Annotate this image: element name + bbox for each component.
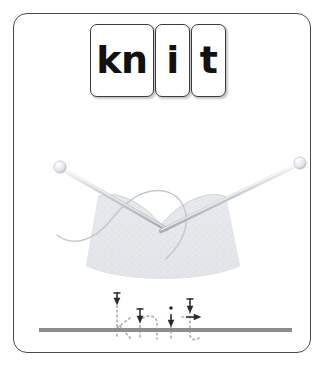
knitting-illustration xyxy=(14,129,312,294)
arrow-k xyxy=(114,292,121,304)
phoneme-box-row: kn i t xyxy=(90,24,226,97)
phoneme-label-kn: kn xyxy=(96,41,147,79)
tracing-letter-k xyxy=(117,296,131,339)
phoneme-box-kn[interactable]: kn xyxy=(90,24,154,97)
right-needle xyxy=(161,157,306,231)
left-needle-ball xyxy=(54,161,66,173)
arrow-n xyxy=(137,308,144,322)
phoneme-box-i[interactable]: i xyxy=(155,24,190,97)
phoneme-label-t: t xyxy=(200,41,218,79)
right-needle-ball xyxy=(294,157,306,169)
writing-baseline xyxy=(39,328,292,332)
arrow-t xyxy=(186,298,200,319)
flashcard: kn i t xyxy=(13,13,311,353)
phoneme-label-i: i xyxy=(166,41,179,79)
tracing-letter-i-dot xyxy=(169,306,173,310)
phoneme-box-t[interactable]: t xyxy=(191,24,226,97)
arrow-i xyxy=(169,314,173,326)
tracing-word-knit[interactable] xyxy=(14,276,312,348)
